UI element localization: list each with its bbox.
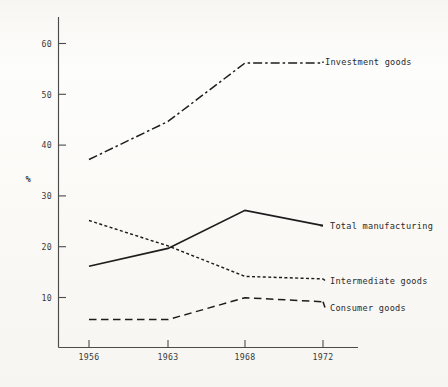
y-tick-label-30: 30 <box>42 191 52 201</box>
series-label-total-manufacturing: Total manufacturing <box>330 221 433 231</box>
axes-group <box>59 17 359 348</box>
y-tick-label-50: 50 <box>42 90 52 100</box>
plot-surface: 60 50 40 30 20 10 % 1956 1963 1968 1972 <box>0 0 448 387</box>
series-group <box>89 63 323 320</box>
line-chart: 60 50 40 30 20 10 % 1956 1963 1968 1972 <box>0 0 448 387</box>
series-label-investment-goods: Investment goods <box>325 57 412 67</box>
y-tick-group: 60 50 40 30 20 10 <box>42 39 66 303</box>
x-tick-label-1968: 1968 <box>235 352 256 362</box>
series-label-group: Investment goods Total manufacturing Int… <box>325 57 433 313</box>
y-axis-title: % <box>25 174 31 184</box>
series-label-consumer-goods: Consumer goods <box>330 303 406 313</box>
label-leader-group <box>320 62 325 308</box>
series-label-intermediate-goods: Intermediate goods <box>330 276 428 286</box>
x-tick-label-1972: 1972 <box>313 352 334 362</box>
y-tick-label-40: 40 <box>42 140 52 150</box>
x-tick-label-1956: 1956 <box>79 352 100 362</box>
y-tick-label-10: 10 <box>42 293 52 303</box>
series-path-investment-goods <box>89 63 323 160</box>
series-path-total-manufacturing <box>89 210 323 266</box>
y-tick-label-60: 60 <box>42 39 52 49</box>
x-tick-label-1963: 1963 <box>158 352 179 362</box>
series-path-consumer-goods <box>89 298 323 320</box>
y-tick-label-20: 20 <box>42 242 52 252</box>
leader-line-intermediate-goods <box>323 279 325 281</box>
leader-line-consumer-goods <box>323 302 325 308</box>
x-tick-group: 1956 1963 1968 1972 <box>79 340 334 362</box>
chart-page: 60 50 40 30 20 10 % 1956 1963 1968 1972 <box>0 0 448 387</box>
